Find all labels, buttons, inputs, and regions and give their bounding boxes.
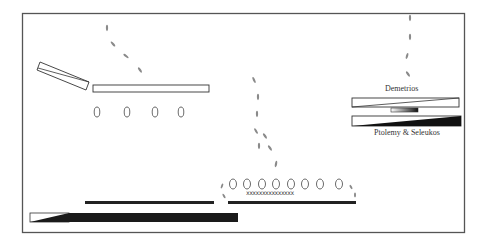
- circle-unit: [152, 107, 158, 117]
- battle-diagram: xxxxxxxxxxxxxxx Demetrios Ptolemy & Sele…: [0, 0, 486, 245]
- bottom-block-unit: [30, 213, 238, 222]
- upper-left-circles: [94, 107, 184, 117]
- track-left-footprints: [106, 25, 143, 73]
- circle-unit: [317, 179, 324, 189]
- circle-unit: [273, 179, 280, 189]
- circle-unit: [178, 107, 184, 117]
- diagram-canvas: xxxxxxxxxxxxxxx: [0, 0, 486, 245]
- label-demetrios: Demetrios: [385, 84, 418, 93]
- circle-unit: [259, 179, 266, 189]
- circle-unit: [124, 107, 130, 117]
- track-right-footprints: [405, 15, 411, 77]
- tilted-unit-block: [37, 62, 89, 90]
- circle-unit: [94, 107, 100, 117]
- ptolemy-seleukos-block: [352, 116, 461, 126]
- circle-unit: [244, 179, 251, 189]
- label-ptolemy-seleukos: Ptolemy & Seleukos: [374, 128, 440, 137]
- circle-unit: [302, 179, 309, 189]
- bottom-left-line-unit: [85, 201, 214, 204]
- circle-unit: [230, 179, 237, 189]
- circle-unit: [288, 179, 295, 189]
- center-circles: [230, 179, 343, 189]
- circle-unit: [336, 179, 343, 189]
- upper-left-line-unit: [93, 85, 209, 92]
- demetrios-block-mid: [391, 108, 418, 112]
- center-crosses: xxxxxxxxxxxxxxx: [246, 189, 294, 196]
- center-line-unit: [228, 201, 356, 204]
- demetrios-block-top: [352, 98, 459, 107]
- track-center-footprints: [252, 77, 278, 168]
